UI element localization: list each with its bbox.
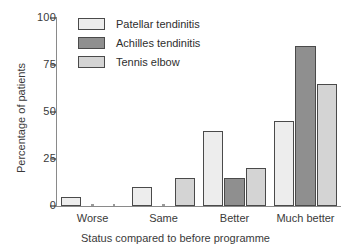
legend-item-achilles-tendinitis: Achilles tendinitis [78, 33, 200, 52]
y-tick-label: 25 [10, 152, 56, 164]
y-tick-label: 75 [10, 58, 56, 70]
y-tick-label: 50 [10, 105, 56, 117]
bar-better-tennis-elbow [246, 168, 267, 206]
bar-worse-achilles-tendinitis [91, 204, 93, 206]
x-axis-title: Status compared to before programme [0, 232, 351, 244]
legend-swatch-icon [78, 18, 105, 30]
bar-much-better-tennis-elbow [317, 84, 338, 206]
x-tick-label-better: Better [220, 212, 249, 224]
bar-better-achilles-tendinitis [224, 178, 245, 206]
x-axis-line [56, 206, 341, 207]
bar-same-patellar-tendinitis [132, 187, 153, 206]
legend-swatch-icon [78, 56, 105, 68]
legend-label: Tennis elbow [116, 56, 180, 68]
x-tick-label-much-better: Much better [276, 212, 334, 224]
bar-same-achilles-tendinitis [162, 204, 164, 206]
legend-item-tennis-elbow: Tennis elbow [78, 52, 200, 71]
legend-swatch-icon [78, 37, 105, 49]
y-tick-label: 100 [10, 11, 56, 23]
legend: Patellar tendinitisAchilles tendinitisTe… [78, 14, 200, 71]
bar-better-patellar-tendinitis [203, 131, 224, 206]
bar-worse-patellar-tendinitis [61, 197, 82, 206]
chart-figure: Percentage of patients 0255075100 WorseS… [0, 0, 351, 252]
bar-much-better-patellar-tendinitis [274, 121, 295, 206]
legend-label: Achilles tendinitis [116, 37, 200, 49]
x-tick-label-worse: Worse [77, 212, 109, 224]
bar-worse-tennis-elbow [113, 204, 115, 206]
legend-item-patellar-tendinitis: Patellar tendinitis [78, 14, 200, 33]
bar-much-better-achilles-tendinitis [295, 46, 316, 206]
y-axis-ticks: 0255075100 [0, 0, 56, 252]
y-tick-label: 0 [10, 199, 56, 211]
x-tick-label-same: Same [149, 212, 178, 224]
bar-same-tennis-elbow [175, 178, 196, 206]
legend-label: Patellar tendinitis [116, 18, 200, 30]
